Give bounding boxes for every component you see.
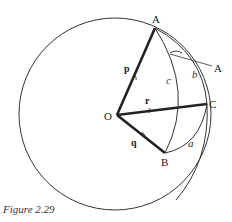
arc-b	[155, 28, 207, 104]
label-B: B	[161, 156, 168, 168]
label-a: a	[188, 137, 194, 149]
label-q: q	[131, 137, 137, 148]
spherical-triangle-diagram: A O C B A p r q c b a	[0, 0, 232, 222]
arc-a	[165, 104, 207, 153]
label-C: C	[209, 98, 216, 110]
label-A: A	[152, 13, 160, 25]
label-b: b	[192, 68, 198, 80]
vector-q	[117, 115, 165, 153]
arc-c	[155, 28, 178, 153]
label-r: r	[145, 95, 150, 106]
label-angle-A: A	[214, 62, 222, 74]
label-p: p	[124, 63, 130, 74]
label-O: O	[104, 110, 112, 122]
vector-r	[117, 104, 207, 115]
great-circle-bc	[176, 104, 207, 200]
label-c: c	[166, 74, 171, 86]
figure-caption: Figure 2.29	[3, 203, 55, 215]
angle-arc-mark	[170, 51, 182, 53]
sphere-outline	[19, 18, 211, 210]
